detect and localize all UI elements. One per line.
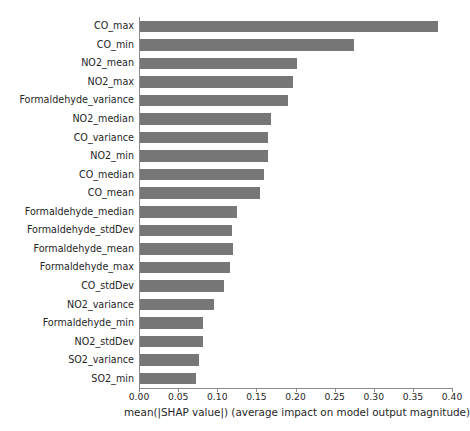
x-axis-tick-label: 0.40 bbox=[442, 392, 462, 401]
bar-category-label: CO_median bbox=[79, 170, 134, 180]
bar bbox=[140, 76, 293, 88]
bar bbox=[140, 243, 233, 255]
bar-category-label: CO_stdDev bbox=[81, 281, 134, 291]
bar bbox=[140, 336, 203, 348]
bar-category-label: Formaldehyde_max bbox=[40, 263, 134, 273]
bar bbox=[140, 21, 438, 33]
bar-row: Formaldehyde_stdDev bbox=[140, 225, 453, 237]
bar bbox=[140, 39, 354, 51]
bar-row: CO_min bbox=[140, 39, 453, 51]
bar-category-label: Formaldehyde_mean bbox=[34, 244, 134, 254]
bar-row: CO_mean bbox=[140, 187, 453, 199]
bar-row: NO2_variance bbox=[140, 299, 453, 311]
bar-row: SO2_variance bbox=[140, 354, 453, 366]
bar bbox=[140, 58, 297, 70]
x-axis-tick-label: 0.15 bbox=[246, 392, 266, 401]
bar-category-label: NO2_mean bbox=[81, 59, 134, 69]
bar-category-label: NO2_max bbox=[87, 77, 134, 87]
bar bbox=[140, 95, 288, 107]
bar bbox=[140, 150, 268, 162]
bar-group: CO_maxCO_minNO2_meanNO2_maxFormaldehyde_… bbox=[140, 17, 453, 388]
bar-row: NO2_min bbox=[140, 150, 453, 162]
bar-category-label: Formaldehyde_min bbox=[43, 318, 134, 328]
bar-row: NO2_stdDev bbox=[140, 336, 453, 348]
bar-row: NO2_median bbox=[140, 113, 453, 125]
bar bbox=[140, 132, 268, 144]
bar-row: Formaldehyde_max bbox=[140, 262, 453, 274]
bar-category-label: CO_min bbox=[97, 40, 134, 50]
bar-category-label: NO2_min bbox=[90, 151, 134, 161]
x-axis-tick-label: 0.05 bbox=[168, 392, 188, 401]
bar-row: SO2_min bbox=[140, 373, 453, 385]
bar-row: NO2_mean bbox=[140, 58, 453, 70]
bar bbox=[140, 206, 237, 218]
bar bbox=[140, 169, 264, 181]
bar bbox=[140, 225, 232, 237]
bar-category-label: CO_max bbox=[94, 21, 134, 31]
x-axis-tick-label: 0.30 bbox=[364, 392, 384, 401]
bar bbox=[140, 373, 196, 385]
bar-row: Formaldehyde_mean bbox=[140, 243, 453, 255]
bar bbox=[140, 354, 199, 366]
bar bbox=[140, 187, 260, 199]
x-axis-label: mean(|SHAP value|) (average impact on mo… bbox=[0, 406, 468, 418]
bar-row: NO2_max bbox=[140, 76, 453, 88]
bar-category-label: Formaldehyde_variance bbox=[19, 96, 134, 106]
bar-row: CO_variance bbox=[140, 132, 453, 144]
bar-row: Formaldehyde_variance bbox=[140, 95, 453, 107]
x-axis-tick-label: 0.10 bbox=[207, 392, 227, 401]
bar bbox=[140, 113, 271, 125]
bar-category-label: SO2_variance bbox=[68, 355, 134, 365]
x-axis-tick-label: 0.35 bbox=[403, 392, 423, 401]
bar-category-label: NO2_stdDev bbox=[75, 337, 134, 347]
bar-row: CO_max bbox=[140, 21, 453, 33]
bar bbox=[140, 262, 230, 274]
x-axis-tick-label: 0.20 bbox=[285, 392, 305, 401]
plot-area: CO_maxCO_minNO2_meanNO2_maxFormaldehyde_… bbox=[139, 17, 453, 388]
x-axis-label-text: mean(|SHAP value|) (average impact on mo… bbox=[124, 406, 470, 418]
bar-row: CO_stdDev bbox=[140, 280, 453, 292]
bar-row: Formaldehyde_min bbox=[140, 317, 453, 329]
bar-category-label: SO2_min bbox=[91, 374, 134, 384]
bar-row: CO_median bbox=[140, 169, 453, 181]
bar-category-label: NO2_median bbox=[72, 114, 134, 124]
bar-category-label: CO_variance bbox=[74, 133, 134, 143]
bar-category-label: Formaldehyde_median bbox=[25, 207, 134, 217]
bar bbox=[140, 299, 214, 311]
bar bbox=[140, 317, 203, 329]
bar-category-label: CO_mean bbox=[88, 188, 134, 198]
x-axis-tick-label: 0.25 bbox=[324, 392, 344, 401]
x-axis-tick-label: 0.00 bbox=[129, 392, 149, 401]
bar bbox=[140, 280, 224, 292]
bar-category-label: NO2_variance bbox=[67, 300, 134, 310]
bar-category-label: Formaldehyde_stdDev bbox=[27, 226, 134, 236]
bar-row: Formaldehyde_median bbox=[140, 206, 453, 218]
